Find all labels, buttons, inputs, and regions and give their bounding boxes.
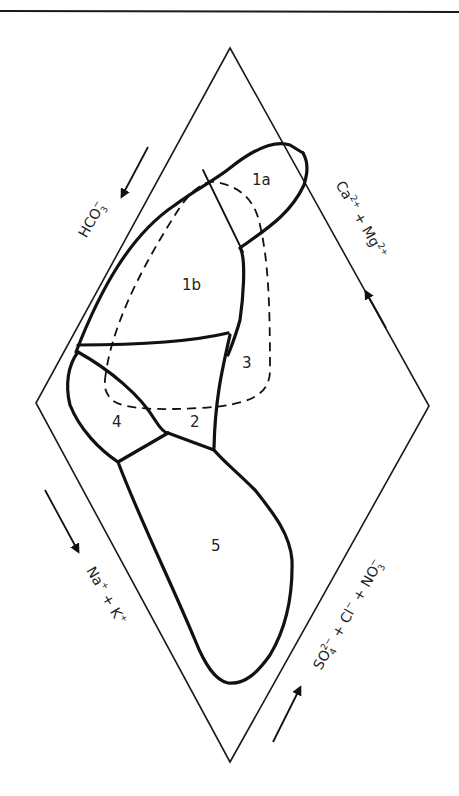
dashed-envelope bbox=[105, 182, 270, 409]
svg-text:Na+ + K+: Na+ + K+ bbox=[83, 563, 130, 627]
region-label-3: 3 bbox=[242, 354, 252, 372]
hco3-arrow-icon bbox=[122, 147, 148, 196]
field-4-2-divider bbox=[78, 352, 168, 433]
axis-label-hco3: HCO3− bbox=[74, 198, 111, 241]
field-2-3-divider bbox=[214, 335, 230, 448]
field-2-bottom-boundary bbox=[168, 433, 214, 450]
axis-label-na-k: Na+ + K+ bbox=[83, 563, 130, 627]
ca-mg-arrow-icon bbox=[366, 292, 386, 328]
field-4-outer-boundary bbox=[68, 352, 118, 462]
region-label-1a: 1a bbox=[252, 171, 271, 189]
region-label-4: 4 bbox=[112, 413, 122, 431]
na-k-arrow-icon bbox=[45, 490, 78, 551]
field-1b-bottom-boundary bbox=[78, 333, 228, 345]
region-label-1b: 1b bbox=[182, 276, 201, 294]
piper-diamond-diagram: 1a 1b 2 3 4 5 HCO3− Ca2+ + Mg2+ Na+ + K+… bbox=[0, 0, 459, 796]
region-label-5: 5 bbox=[211, 537, 221, 555]
field-5-boundary bbox=[118, 450, 292, 683]
region-label-2: 2 bbox=[190, 413, 200, 431]
top-rule bbox=[0, 11, 459, 12]
so4-cl-no3-arrow-icon bbox=[273, 688, 300, 742]
svg-text:HCO3−: HCO3− bbox=[74, 198, 111, 241]
svg-text:SO42− + Cl− + NO3−: SO42− + Cl− + NO3− bbox=[309, 556, 388, 674]
axis-label-so4-cl-no3: SO42− + Cl− + NO3− bbox=[309, 556, 388, 674]
field-4-5-divider bbox=[118, 433, 168, 462]
